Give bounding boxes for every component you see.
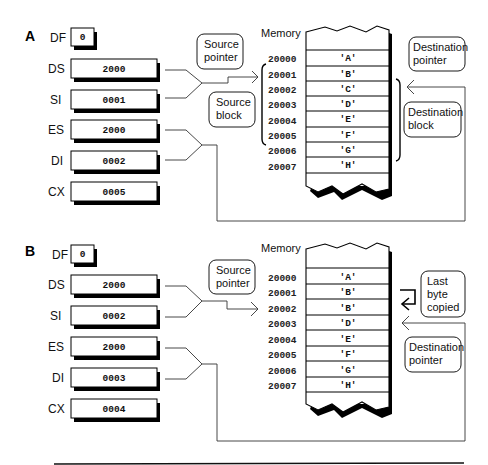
register-value-es: 2000 <box>103 342 126 353</box>
memory-title-b: Memory <box>261 242 301 254</box>
register-value-cx: 0005 <box>103 187 126 198</box>
svg-text:pointer: pointer <box>409 354 443 366</box>
register-label-si: SI <box>50 93 61 107</box>
svg-text:'F': 'F' <box>339 130 356 141</box>
svg-text:20001: 20001 <box>268 70 297 81</box>
register-label-es: ES <box>48 123 64 137</box>
svg-text:byte: byte <box>427 288 448 300</box>
svg-text:'D': 'D' <box>339 99 356 110</box>
panel-b: B DF 0 DS 2000 SI 0002 ES 2000 DI <box>25 242 465 441</box>
svg-text:'E': 'E' <box>339 334 356 345</box>
svg-text:20002: 20002 <box>268 304 297 315</box>
memory-addresses-b: 20000 20001 20002 20003 20004 20005 2000… <box>268 273 297 392</box>
svg-text:Destination: Destination <box>408 106 463 118</box>
svg-text:'B': 'B' <box>339 303 356 314</box>
svg-text:copied: copied <box>427 301 459 313</box>
register-label-si: SI <box>50 309 61 323</box>
svg-text:20005: 20005 <box>268 131 297 142</box>
svg-text:'F': 'F' <box>339 349 356 360</box>
string-move-diagram: A DF 0 DS 2000 SI 0001 ES 2000 DI <box>0 0 488 465</box>
callout-source-pointer-b: Source pointer <box>209 260 255 294</box>
svg-text:Source: Source <box>204 38 239 50</box>
register-value-di: 0002 <box>103 156 126 167</box>
register-label-cx: CX <box>48 185 65 199</box>
memory-title-a: Memory <box>261 27 301 39</box>
memory-block-b <box>306 243 392 418</box>
register-value-ds: 2000 <box>103 280 126 291</box>
last-byte-copied-arrow <box>400 290 415 310</box>
source-block-bracket <box>262 64 266 145</box>
svg-text:'H': 'H' <box>339 160 356 171</box>
register-value-cx: 0004 <box>103 404 126 415</box>
svg-text:'A': 'A' <box>339 53 356 64</box>
register-label-df: DF <box>50 31 66 45</box>
panel-label-a: A <box>25 28 35 44</box>
destination-block-bracket <box>396 79 400 161</box>
callout-destination-block-a: Destination block <box>404 102 463 137</box>
registers-a: DF 0 DS 2000 SI 0001 ES 2000 DI 0002 <box>48 28 160 205</box>
panel-a: A DF 0 DS 2000 SI 0001 ES 2000 DI <box>25 26 468 221</box>
svg-text:block: block <box>216 109 242 121</box>
register-value-si: 0001 <box>103 95 126 106</box>
svg-text:pointer: pointer <box>413 54 447 66</box>
svg-text:'B': 'B' <box>339 69 356 80</box>
callout-last-byte-copied: Last byte copied <box>421 271 465 317</box>
svg-text:'G': 'G' <box>339 145 356 156</box>
register-value-di: 0003 <box>103 373 126 384</box>
svg-text:Last: Last <box>427 275 448 287</box>
svg-text:20001: 20001 <box>268 288 297 299</box>
svg-text:'D': 'D' <box>339 318 356 329</box>
register-value-df: 0 <box>80 249 86 260</box>
register-label-cx: CX <box>48 402 65 416</box>
register-label-di: DI <box>52 371 64 385</box>
svg-text:'B': 'B' <box>339 287 356 298</box>
svg-text:'H': 'H' <box>339 380 356 391</box>
svg-text:20005: 20005 <box>268 350 297 361</box>
callout-destination-pointer-a: Destination pointer <box>409 37 468 71</box>
svg-text:Destination: Destination <box>413 41 468 53</box>
svg-text:'C': 'C' <box>339 84 356 95</box>
svg-text:20006: 20006 <box>268 146 297 157</box>
registers-b: DF 0 DS 2000 SI 0002 ES 2000 DI 0003 <box>48 245 160 422</box>
svg-text:20006: 20006 <box>268 366 297 377</box>
svg-text:pointer: pointer <box>204 51 238 63</box>
svg-text:20002: 20002 <box>268 85 297 96</box>
svg-text:block: block <box>408 119 434 131</box>
svg-text:20003: 20003 <box>268 319 297 330</box>
svg-text:20004: 20004 <box>268 116 297 127</box>
svg-text:20007: 20007 <box>268 381 297 392</box>
register-label-ds: DS <box>48 278 65 292</box>
bottom-rule <box>54 463 464 464</box>
callout-source-pointer-a: Source pointer <box>197 34 243 69</box>
register-value-si: 0002 <box>103 311 126 322</box>
svg-text:Source: Source <box>216 264 251 276</box>
svg-text:20003: 20003 <box>268 100 297 111</box>
svg-text:'E': 'E' <box>339 114 356 125</box>
svg-text:pointer: pointer <box>216 277 250 289</box>
svg-text:20000: 20000 <box>268 54 297 65</box>
callout-source-block-a: Source block <box>209 92 255 127</box>
svg-text:Destination: Destination <box>409 341 464 353</box>
register-label-es: ES <box>48 340 64 354</box>
register-value-es: 2000 <box>103 125 126 136</box>
svg-text:20007: 20007 <box>268 162 297 173</box>
register-label-ds: DS <box>48 62 65 76</box>
callout-destination-pointer-b: Destination pointer <box>405 337 464 372</box>
svg-text:'A': 'A' <box>339 272 356 283</box>
svg-text:Source: Source <box>216 96 251 108</box>
svg-text:20000: 20000 <box>268 273 297 284</box>
memory-addresses-a: 20000 20001 20002 20003 20004 20005 2000… <box>268 54 297 173</box>
svg-text:20004: 20004 <box>268 335 297 346</box>
register-value-ds: 2000 <box>103 64 126 75</box>
register-value-df: 0 <box>80 32 86 43</box>
register-label-di: DI <box>51 154 63 168</box>
register-label-df: DF <box>52 248 68 262</box>
panel-label-b: B <box>25 243 35 259</box>
svg-text:'G': 'G' <box>339 365 356 376</box>
